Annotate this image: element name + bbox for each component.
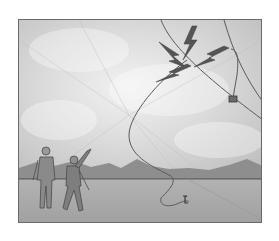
storm-kite-illustration	[19, 20, 262, 223]
illustration-frame: Illustration of two people flying a kite…	[18, 19, 262, 223]
kite-key-icon	[229, 96, 237, 102]
ground	[19, 180, 262, 223]
